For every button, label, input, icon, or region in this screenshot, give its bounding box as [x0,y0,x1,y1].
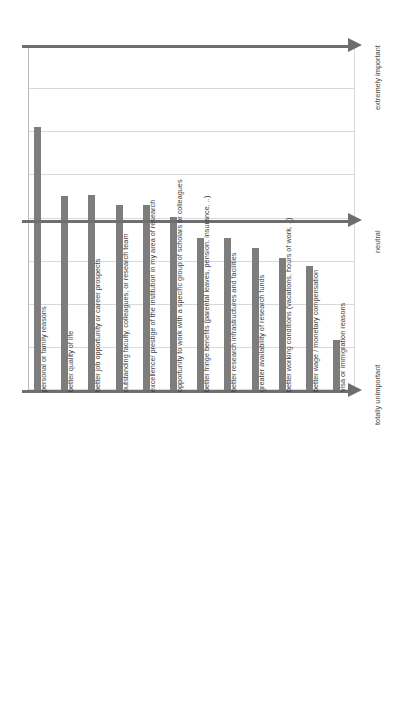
category-label: personal or family reasons [40,306,48,392]
category-label: better job opportunity or career prospec… [94,259,102,392]
plot-area [28,45,355,390]
category-label: better research infrastructures and faci… [230,252,238,392]
arrowhead-neutral [348,213,362,227]
category-label: better fringe benefits (parental leaves,… [203,196,211,392]
axis-line-extremely-important [22,45,350,48]
category-label: better working conditions (vacations, ho… [285,218,293,392]
scale-caption-neutral: neutral [373,230,382,253]
arrowhead-extremely-important [348,38,362,52]
category-label: visa or immigration reasons [339,303,347,392]
category-axis-labels: personal or family reasonsbetter quality… [0,392,404,707]
scale-caption-line2: neutral [373,230,382,253]
category-label: greater availability of research funds [258,275,266,392]
scale-caption-extremely-important: extremely important [373,45,382,110]
category-label: better wage / monetary compensation [312,270,320,392]
category-label: better quality of life [67,331,75,392]
scale-caption-line1: extremely important [373,45,382,110]
category-label: outstanding faculty, colleagues, or rese… [122,234,130,392]
bar-chart-figure: extremely important neutral totally unim… [0,0,404,707]
axis-line-neutral [22,220,350,223]
category-label: excellence/ prestige of the institution … [149,200,157,392]
bar-series [29,45,354,390]
category-label: opportunity to work with a specific grou… [176,179,184,392]
